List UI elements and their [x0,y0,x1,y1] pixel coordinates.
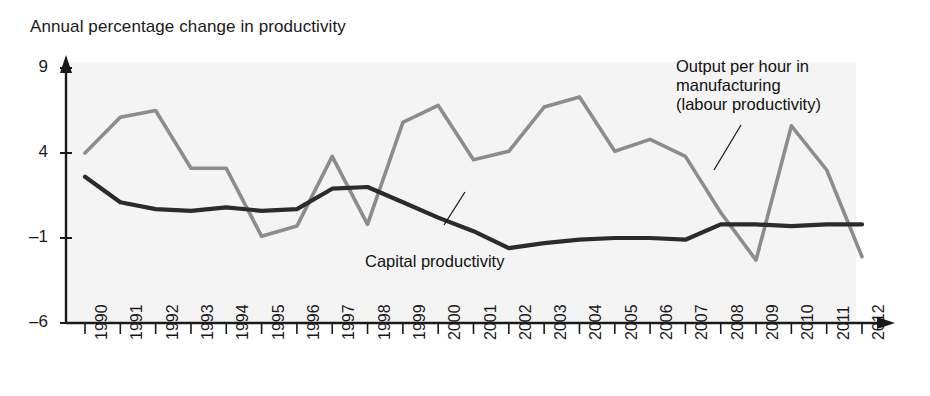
x-axis-tick-label: 1990 [93,304,111,340]
x-axis-tick-label: 1991 [128,304,146,340]
x-axis-tick-label: 1993 [199,304,217,340]
y-axis-tick-label: 9 [8,57,48,77]
capital-productivity-annotation: Capital productivity [365,252,504,271]
x-axis-tick-label: 1992 [164,304,182,340]
x-axis-tick-label: 1995 [270,304,288,340]
x-axis-tick-label: 2008 [729,304,747,340]
x-axis-tick-label: 2006 [658,304,676,340]
x-axis-tick-label: 1999 [411,304,429,340]
x-axis-tick-label: 2003 [552,304,570,340]
y-axis-tick-label: –6 [8,312,48,332]
x-axis-tick-label: 2012 [870,304,888,340]
x-axis-tick-label: 2002 [517,304,535,340]
y-axis-tick-label: –1 [8,227,48,247]
x-axis-tick-label: 2004 [587,304,605,340]
x-axis-tick-label: 2000 [446,304,464,340]
x-axis-tick-label: 2005 [623,304,641,340]
x-axis-tick-label: 2011 [835,306,853,340]
x-axis-tick-label: 2009 [764,304,782,340]
x-axis-tick-label: 1997 [340,304,358,340]
y-axis-tick-label: 4 [8,142,48,162]
chart-container: Annual percentage change in productivity… [0,0,930,396]
x-axis-tick-label: 2001 [482,304,500,340]
x-axis-tick-label: 1996 [305,304,323,340]
x-axis-tick-label: 2010 [799,304,817,340]
labour-productivity-annotation: Output per hour in manufacturing (labour… [676,57,821,114]
x-axis-tick-label: 2007 [693,304,711,340]
x-axis-tick-label: 1994 [234,304,252,340]
x-axis-tick-label: 1998 [376,304,394,340]
